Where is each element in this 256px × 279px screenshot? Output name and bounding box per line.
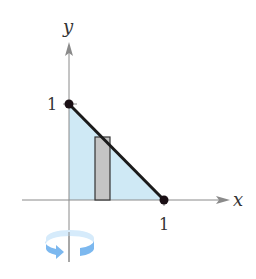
solid-of-revolution-diagram: y x 1 1 (0, 0, 256, 279)
x-tick-label: 1 (159, 215, 169, 234)
y-tick-label: 1 (47, 95, 57, 114)
rotation-arrow-icon (46, 230, 94, 259)
y-axis-label: y (62, 16, 74, 37)
point-1-0 (160, 196, 169, 205)
representative-rectangle (95, 137, 110, 200)
point-0-1 (65, 100, 74, 109)
x-axis-label: x (233, 189, 243, 210)
